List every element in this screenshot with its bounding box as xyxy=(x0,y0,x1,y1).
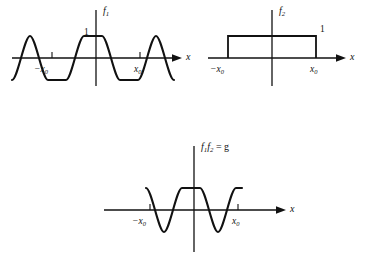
figure-container: f1 1 −x0 x0 x f2 1 −x0 x0 x xyxy=(0,0,383,268)
x-axis-arrowhead xyxy=(336,54,346,62)
f1-x-axis-label: x xyxy=(186,52,190,62)
f2-function-label: f2 xyxy=(279,6,285,18)
panel-f2: f2 1 −x0 x0 x xyxy=(200,6,380,91)
panel-f1: f1 1 −x0 x0 x xyxy=(8,6,198,91)
x-axis-arrowhead xyxy=(276,206,286,214)
f1-function-label: f1 xyxy=(103,6,109,18)
f2-tick-label-minus-x0: −x0 xyxy=(210,65,224,75)
f2-amplitude-label: 1 xyxy=(320,25,325,35)
f2-tick-label-x0: x0 xyxy=(310,65,317,75)
f1-tick-label-minus-x0: −x0 xyxy=(34,65,48,75)
x-axis-arrowhead xyxy=(172,54,182,62)
f1-tick-label-x0: x0 xyxy=(134,65,141,75)
g-tick-label-x0: x0 xyxy=(232,217,239,227)
g-x-axis-label: x xyxy=(290,204,294,214)
g-tick-label-minus-x0: −x0 xyxy=(132,217,146,227)
panel-g: f1f2 = g −x0 x0 x xyxy=(100,140,320,260)
panel-f2-plot xyxy=(200,6,380,91)
panel-g-plot xyxy=(100,140,320,260)
g-equation-label: f1f2 = g xyxy=(201,142,229,154)
f1-amplitude-label: 1 xyxy=(84,28,89,38)
panel-f1-plot xyxy=(8,6,198,91)
f2-x-axis-label: x xyxy=(350,52,354,62)
